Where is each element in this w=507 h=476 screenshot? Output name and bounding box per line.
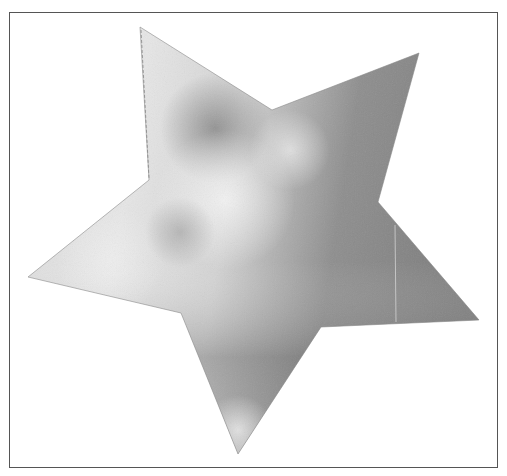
star-graphic	[0, 0, 507, 476]
figure-canvas	[0, 0, 507, 476]
star-fill	[0, 0, 507, 476]
